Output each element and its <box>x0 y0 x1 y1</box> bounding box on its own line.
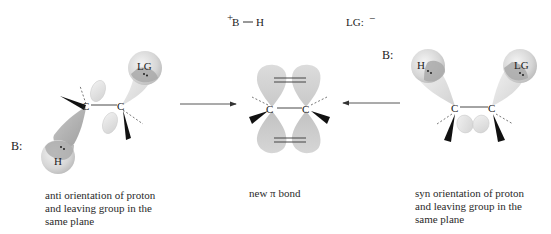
protonated-base-label: B <box>232 16 239 28</box>
electron-pair-icon <box>146 75 148 77</box>
caption-line: same plane <box>415 213 524 226</box>
carbon-atom: C <box>488 102 495 114</box>
electron-pair-icon <box>522 74 524 76</box>
electron-pair-icon <box>427 70 429 72</box>
pi-lobe-top <box>257 65 287 107</box>
leaving-group-charge: − <box>369 12 375 24</box>
caption-line: and leaving group in the <box>415 200 524 213</box>
carbon-atom: C <box>451 102 458 114</box>
small-lobe-icon <box>88 78 109 103</box>
electron-pair-icon <box>430 72 432 74</box>
product-caption: new π bond <box>249 187 300 200</box>
base-label: B: <box>11 139 22 153</box>
caption-line: anti orientation of proton <box>45 189 155 202</box>
carbon-atom: C <box>302 103 309 115</box>
pi-lobe-bottom <box>292 111 321 153</box>
anti-caption: anti orientation of proton and leaving g… <box>45 189 155 228</box>
pi-lobe-top <box>292 65 321 107</box>
dashed-bond <box>496 114 513 124</box>
caption-line: and leaving group in the <box>45 202 155 215</box>
hydrogen-label: H <box>417 59 425 71</box>
caption-line: same plane <box>45 215 155 228</box>
electron-pair-icon <box>143 73 145 75</box>
electron-pair-icon <box>519 72 521 74</box>
wedge-bond-icon <box>444 114 455 142</box>
small-lobe-icon <box>454 113 475 135</box>
product-structure: C C <box>249 65 330 153</box>
syn-caption: syn orientation of proton and leaving gr… <box>415 187 524 226</box>
dashed-bond <box>437 114 452 124</box>
protonated-base-hydrogen: H <box>256 16 264 28</box>
hydrogen-label: H <box>54 155 62 167</box>
base-label: B: <box>382 48 393 62</box>
leaving-group-label: LG <box>137 60 152 72</box>
dashed-bond <box>311 97 327 105</box>
electron-pair-icon <box>63 148 65 150</box>
carbon-atom: C <box>82 100 89 112</box>
small-lobe-icon <box>470 113 491 135</box>
caption-line: syn orientation of proton <box>415 187 524 200</box>
leaving-group-label: LG <box>514 59 529 71</box>
carbon-atom: C <box>117 100 124 112</box>
pi-lobe-bottom <box>257 111 287 153</box>
electron-pair-icon <box>60 146 62 148</box>
leaving-group-anion-label: LG: <box>346 16 364 28</box>
syn-structure: C C H LG B: <box>382 48 537 142</box>
small-lobe-icon <box>100 110 121 135</box>
carbon-atom: C <box>266 103 273 115</box>
anti-structure: C C LG H B: <box>11 51 162 174</box>
